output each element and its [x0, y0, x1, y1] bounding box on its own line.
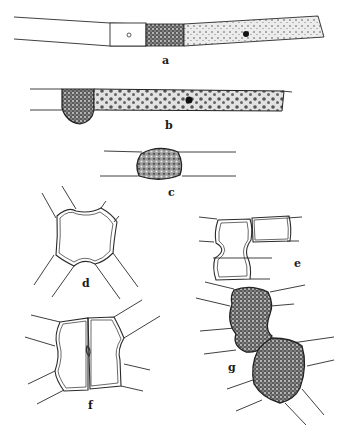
- panel-f: [25, 300, 160, 404]
- panel-g: [196, 282, 334, 425]
- panel-label-d: d: [82, 278, 90, 289]
- panel-e: [199, 216, 302, 280]
- panel-label-c: c: [168, 187, 175, 198]
- panel-label-a: a: [162, 55, 169, 66]
- botanical-figure: [0, 0, 349, 434]
- panel-label-b: b: [165, 120, 173, 131]
- panel-label-e: e: [294, 258, 301, 269]
- panel-c: [100, 148, 236, 179]
- panel-b: [30, 89, 292, 124]
- panel-label-g: g: [228, 362, 236, 373]
- panel-a: [14, 16, 324, 46]
- panel-label-f: f: [88, 400, 93, 411]
